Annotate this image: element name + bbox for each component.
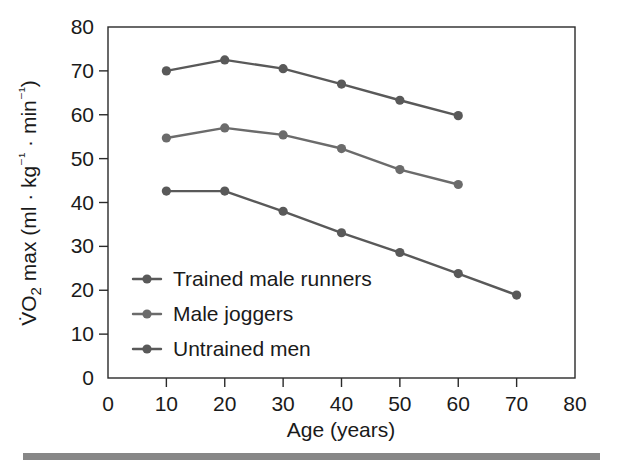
x-tick-label-0: 0 (102, 392, 114, 415)
x-axis-ticks (166, 378, 516, 387)
data-point (279, 64, 288, 73)
y-axis-title-text: V̇O2 max (ml · kg⁻¹ · min⁻¹) (15, 80, 44, 326)
x-tick-label-70: 70 (505, 392, 528, 415)
figure-panel: 01020304050607080 01020304050607080 Trai… (0, 0, 625, 468)
y-tick-label-10: 10 (71, 322, 94, 345)
data-point (279, 207, 288, 216)
data-point (395, 248, 404, 257)
data-series-layer (162, 55, 521, 299)
data-point (512, 290, 521, 299)
bottom-divider-rule (23, 453, 600, 460)
legend-marker-dot-0 (142, 274, 151, 283)
x-tick-label-60: 60 (447, 392, 470, 415)
data-point (454, 269, 463, 278)
data-point (220, 55, 229, 64)
legend-marker-dot-2 (142, 344, 151, 353)
y-axis-ticks (99, 71, 108, 334)
data-point (220, 186, 229, 195)
series-line-0 (166, 60, 458, 116)
data-point (454, 180, 463, 189)
legend-label-2: Untrained men (173, 337, 311, 360)
y-tick-label-80: 80 (71, 15, 94, 38)
x-tick-label-10: 10 (155, 392, 178, 415)
y-tick-label-60: 60 (71, 103, 94, 126)
y-tick-label-50: 50 (71, 147, 94, 170)
x-axis-title: Age (years) (287, 418, 396, 441)
data-point (162, 133, 171, 142)
legend-marker-dot-1 (142, 309, 151, 318)
data-point (279, 130, 288, 139)
data-point (220, 123, 229, 132)
y-axis-tick-labels: 01020304050607080 (71, 15, 94, 389)
data-point (337, 144, 346, 153)
legend-label-0: Trained male runners (173, 267, 372, 290)
series-line-1 (166, 128, 458, 185)
data-point (454, 111, 463, 120)
chart-legend: Trained male runnersMale joggersUntraine… (133, 267, 372, 360)
y-tick-label-20: 20 (71, 278, 94, 301)
y-tick-label-70: 70 (71, 59, 94, 82)
data-point (337, 79, 346, 88)
y-axis-title: V̇O2 max (ml · kg⁻¹ · min⁻¹) (15, 80, 44, 326)
data-point (395, 165, 404, 174)
vo2max-age-line-chart: 01020304050607080 01020304050607080 Trai… (0, 0, 625, 468)
y-tick-label-0: 0 (82, 366, 94, 389)
data-point (162, 66, 171, 75)
x-tick-label-40: 40 (330, 392, 353, 415)
legend-label-1: Male joggers (173, 302, 293, 325)
x-tick-label-30: 30 (271, 392, 294, 415)
x-tick-label-80: 80 (563, 392, 586, 415)
x-tick-label-20: 20 (213, 392, 236, 415)
x-tick-label-50: 50 (388, 392, 411, 415)
y-tick-label-40: 40 (71, 191, 94, 214)
data-point (395, 96, 404, 105)
x-axis-tick-labels: 01020304050607080 (102, 392, 587, 415)
y-tick-label-30: 30 (71, 234, 94, 257)
data-point (337, 228, 346, 237)
data-point (162, 186, 171, 195)
